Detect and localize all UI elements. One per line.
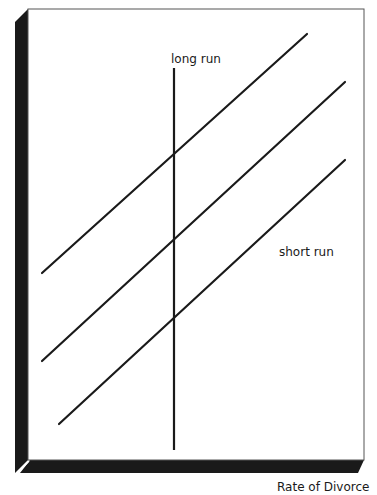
frame-bottom-side <box>20 460 364 473</box>
x-axis-label: Rate of Divorce <box>277 480 369 494</box>
short-run-label: short run <box>279 245 334 259</box>
frame-left-side <box>15 9 28 473</box>
diagram-canvas: long run short run Rate of Divorce <box>0 0 377 495</box>
long-run-label: long run <box>171 52 221 66</box>
frame-panel <box>28 9 364 460</box>
